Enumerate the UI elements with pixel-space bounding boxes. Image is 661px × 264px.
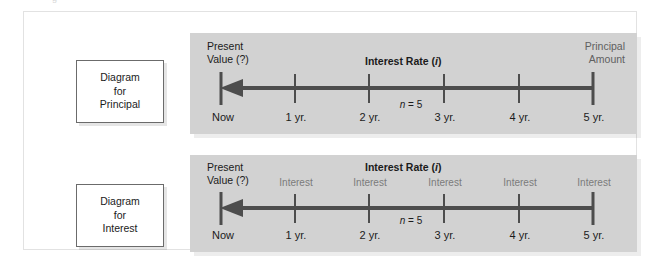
tick-label-now: Now xyxy=(212,111,234,123)
tick-label-year-1: 1 yr. xyxy=(286,229,307,241)
tick-label-year-2: 2 yr. xyxy=(360,111,381,123)
timeline-interest xyxy=(190,155,637,252)
tick-label-year-4: 4 yr. xyxy=(510,229,531,241)
diagram-panel-principal: Present Value (?) Interest Rate (i) Prin… xyxy=(190,33,637,134)
diagram-label-line-2: for xyxy=(114,85,126,98)
figure-frame: Diagram for Principal Present Value (?) … xyxy=(23,11,637,250)
n-value: = 5 xyxy=(405,99,422,110)
clipped-caption-fragment: g xyxy=(52,0,57,3)
diagram-label-line-1: Diagram xyxy=(100,195,140,208)
diagram-panel-interest: Present Value (?) Interest Rate (i) Inte… xyxy=(190,155,637,252)
tick-label-year-4: 4 yr. xyxy=(510,111,531,123)
n-value: = 5 xyxy=(405,215,422,226)
diagram-label-line-1: Diagram xyxy=(100,71,140,84)
diagram-label-box-interest: Diagram for Interest xyxy=(76,184,164,247)
tick-label-year-3: 3 yr. xyxy=(435,229,456,241)
diagram-label-line-3: Interest xyxy=(102,222,137,235)
n-equals-label-interest: n = 5 xyxy=(400,215,423,226)
tick-label-now: Now xyxy=(212,229,234,241)
panel-inner-principal: Present Value (?) Interest Rate (i) Prin… xyxy=(190,33,637,134)
diagram-label-box-principal: Diagram for Principal xyxy=(76,60,164,123)
panel-inner-interest: Present Value (?) Interest Rate (i) Inte… xyxy=(190,155,637,252)
tick-label-year-5: 5 yr. xyxy=(584,229,605,241)
n-equals-label-principal: n = 5 xyxy=(400,99,423,110)
tick-label-year-5: 5 yr. xyxy=(584,111,605,123)
timeline-principal xyxy=(190,33,637,134)
arrowhead-left xyxy=(220,79,243,97)
tick-label-year-1: 1 yr. xyxy=(286,111,307,123)
arrowhead-left xyxy=(220,199,243,217)
diagram-label-line-3: Principal xyxy=(100,98,140,111)
diagram-label-line-2: for xyxy=(114,209,126,222)
tick-label-year-2: 2 yr. xyxy=(360,229,381,241)
tick-label-year-3: 3 yr. xyxy=(435,111,456,123)
